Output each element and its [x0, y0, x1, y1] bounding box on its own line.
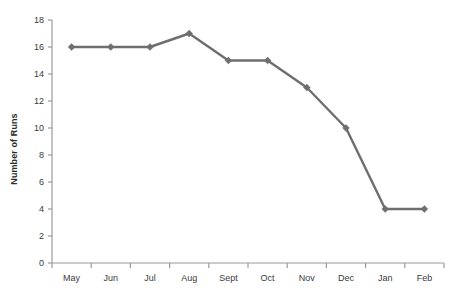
y-axis-tick-labels: 024681012141618 — [34, 15, 44, 268]
data-point-marker — [421, 206, 428, 213]
x-tick-label: Dec — [338, 273, 355, 283]
data-point-marker — [147, 44, 154, 51]
y-tick-label: 0 — [39, 258, 44, 268]
x-tick-label: Feb — [417, 273, 433, 283]
x-tick-label: Nov — [299, 273, 316, 283]
x-tick-label: Sept — [219, 273, 238, 283]
line-chart: Number of Runs 024681012141618 MayJunJul… — [0, 0, 462, 298]
y-tick-label: 18 — [34, 15, 44, 25]
y-tick-label: 14 — [34, 69, 44, 79]
x-tick-label: Aug — [181, 273, 197, 283]
x-tick-label: Oct — [261, 273, 276, 283]
y-tick-label: 16 — [34, 42, 44, 52]
plot-area: 024681012141618 MayJunJulAugSeptOctNovDe… — [0, 0, 462, 298]
x-tick-label: May — [63, 273, 81, 283]
data-point-marker — [107, 44, 114, 51]
x-axis-ticks — [52, 263, 444, 268]
y-tick-label: 12 — [34, 96, 44, 106]
y-tick-label: 4 — [39, 204, 44, 214]
data-line-number-of-runs — [72, 34, 425, 210]
x-tick-label: Jan — [378, 273, 393, 283]
y-tick-label: 8 — [39, 150, 44, 160]
x-tick-label: Jul — [144, 273, 156, 283]
x-tick-label: Jun — [104, 273, 119, 283]
y-tick-label: 2 — [39, 231, 44, 241]
y-tick-label: 6 — [39, 177, 44, 187]
x-axis-tick-labels: MayJunJulAugSeptOctNovDecJanFeb — [63, 273, 432, 283]
y-tick-label: 10 — [34, 123, 44, 133]
data-point-marker — [68, 44, 75, 51]
